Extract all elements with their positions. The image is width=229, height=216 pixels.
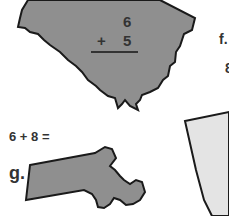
sum-line — [91, 51, 138, 53]
plus-operator: + — [97, 32, 106, 49]
worksheet-shapes — [0, 0, 229, 216]
equation-text: 6 + 8 = — [9, 129, 49, 144]
problem-label-g: g. — [9, 163, 25, 184]
addend-bottom: 5 — [123, 32, 131, 49]
partial-number: 8 — [225, 60, 229, 76]
partial-state-shape — [185, 112, 229, 216]
massachusetts-shape — [26, 147, 145, 208]
south-carolina-shape — [18, 0, 195, 110]
addend-top: 6 — [123, 13, 131, 30]
problem-label-f: f. — [219, 31, 228, 47]
